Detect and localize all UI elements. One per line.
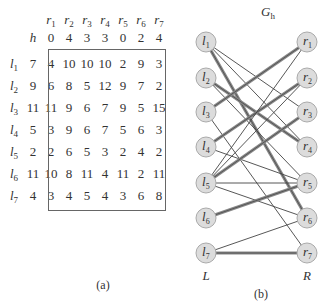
edge-l7-r6 [206,218,307,253]
right-node-r7: r7 [297,243,317,263]
graph-title-sub: h [270,11,275,21]
right-node-r1: r1 [297,32,317,52]
right-node-r2: r2 [297,68,317,88]
right-node-r6: r6 [297,208,317,228]
left-set-label: L [196,268,216,284]
edge-l4-r5 [206,147,307,183]
left-node-l5: l5 [196,173,216,193]
left-node-l2: l2 [196,68,216,88]
left-node-l7: l7 [196,243,216,263]
left-node-l6: l6 [196,208,216,228]
graph-title: Gh [253,4,283,21]
caption-b: (b) [246,287,276,302]
left-node-l1: l1 [196,32,216,52]
edge-l5-r1 [206,42,307,183]
equality-subgraph: l1l2l3l4l5l6l7r1r2r3r4r5r6r7 [0,0,329,306]
right-node-r3: r3 [297,102,317,122]
right-node-r5: r5 [297,173,317,193]
right-node-r4: r4 [297,137,317,157]
left-node-l3: l3 [196,102,216,122]
right-set-label: R [297,268,317,284]
left-node-l4: l4 [196,137,216,157]
matched-edge-core-l5-r3 [206,112,307,183]
